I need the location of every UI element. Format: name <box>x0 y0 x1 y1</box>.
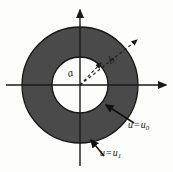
bc-outer-label: u=u1 <box>100 148 121 158</box>
bc-outer-subscript: 1 <box>118 152 121 159</box>
annulus-ring <box>0 0 173 172</box>
bc-outer-value: u <box>113 147 118 158</box>
bc-inner-subscript: 0 <box>146 124 149 131</box>
bc-inner-value: u <box>141 119 146 130</box>
annulus-diagram-svg <box>0 0 173 172</box>
bc-inner-operator: = <box>133 119 141 130</box>
annulus-figure: a b u=u0 u=u1 <box>0 0 173 172</box>
bc-inner-label: u=u0 <box>128 120 149 130</box>
bc-outer-operator: = <box>105 147 113 158</box>
